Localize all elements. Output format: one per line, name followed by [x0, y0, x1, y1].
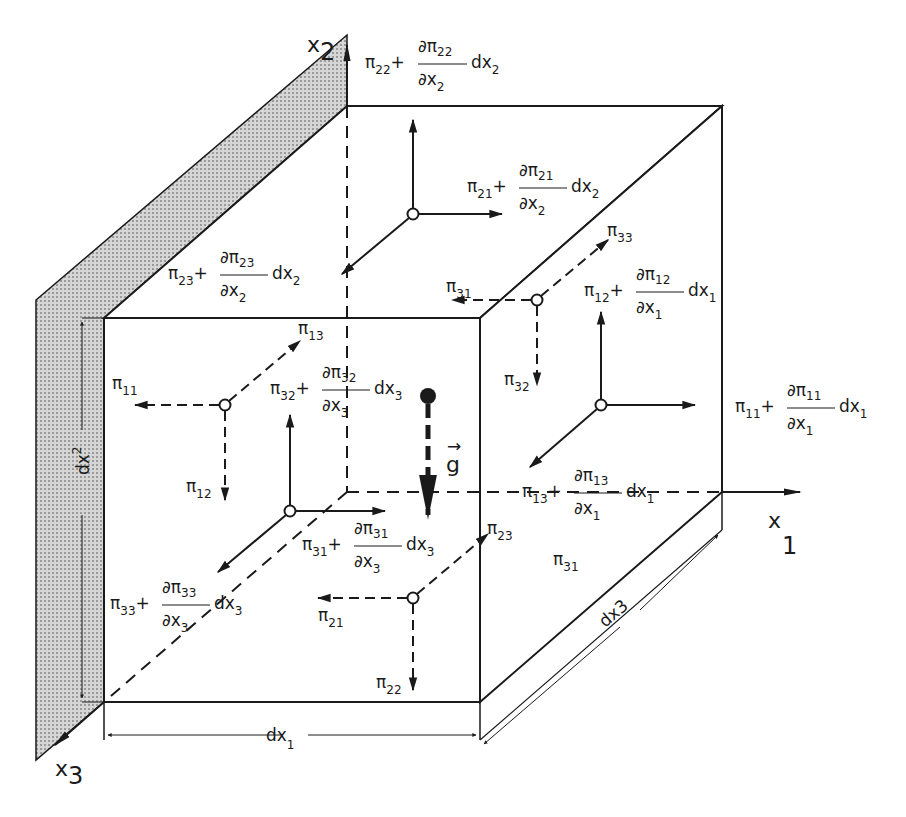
svg-text:∂x2: ∂x2 [418, 69, 445, 94]
axis-x1-label: x1 [768, 508, 797, 560]
fluid-element-stress-diagram: x2 x1 x3 dx1 dx2 dx3 [0, 0, 906, 817]
svg-text:dx1: dx1 [839, 396, 868, 421]
point-marker [408, 209, 419, 220]
point-marker [220, 400, 231, 411]
svg-text:∂π22: ∂π22 [418, 36, 452, 59]
point-marker [532, 295, 543, 306]
axis-x3-label: x3 [55, 756, 83, 790]
expr-pi11: π11+ ∂π11 ∂x1 dx1 [735, 380, 868, 438]
svg-text:dx1: dx1 [266, 725, 295, 752]
svg-text:∂π11: ∂π11 [787, 380, 821, 403]
svg-text:∂x1: ∂x1 [787, 413, 814, 438]
expr-pi22: π22+ ∂π22 ∂x2 dx2 [365, 36, 500, 94]
point-marker [408, 593, 419, 604]
axis-x2-label: x2 [307, 32, 335, 66]
vector-arrow-icon: → [447, 436, 461, 456]
point-marker [285, 506, 296, 517]
axis-x1: x1 [722, 492, 800, 560]
svg-text:π11+: π11+ [735, 396, 775, 421]
point-marker [596, 400, 607, 411]
dimension-dx1: dx1 [108, 725, 476, 752]
svg-text:π22+: π22+ [365, 52, 405, 77]
svg-text:dx3: dx3 [595, 595, 632, 631]
svg-text:dx2: dx2 [471, 52, 500, 77]
